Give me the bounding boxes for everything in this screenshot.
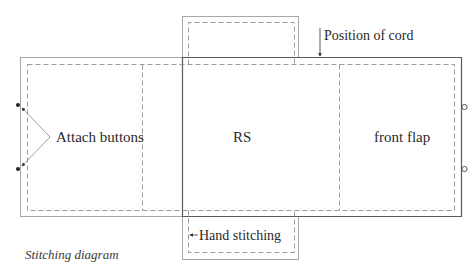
diagram-caption: Stitching diagram	[25, 247, 119, 262]
label-rs: RS	[233, 129, 251, 145]
loop-bottom	[462, 166, 467, 171]
pointer-top	[22, 108, 50, 137]
button-dot-bottom	[16, 167, 20, 171]
pointer-bottom	[22, 137, 50, 166]
top-flap-outline	[183, 17, 299, 58]
stitching-diagram: Attach buttons RS front flap Position of…	[0, 0, 474, 276]
loop-top	[462, 104, 467, 109]
label-attach-buttons: Attach buttons	[56, 129, 144, 145]
label-front-flap: front flap	[374, 129, 430, 145]
top-flap-stitch-line	[189, 23, 295, 65]
label-position-of-cord: Position of cord	[324, 28, 413, 43]
button-dot-top	[16, 103, 20, 107]
label-hand-stitching: Hand stitching	[199, 228, 281, 243]
